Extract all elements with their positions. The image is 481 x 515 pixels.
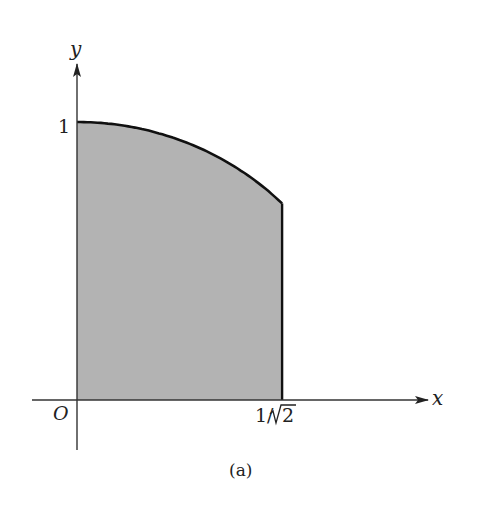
shaded-region (77, 122, 282, 400)
x-tick-label-radicand: 2 (282, 404, 294, 426)
y-tick-label-1: 1 (58, 115, 70, 137)
diagram-figure: y x O 1 1/ 2 (a) (0, 0, 481, 515)
y-axis-label: y (69, 37, 82, 61)
x-axis-label: x (432, 386, 443, 410)
figure-caption: (a) (229, 460, 252, 480)
origin-label: O (53, 402, 69, 424)
x-tick-label-numerator: 1/ (255, 404, 274, 426)
x-tick-label-inv-sqrt2: 1/ 2 (255, 404, 296, 426)
